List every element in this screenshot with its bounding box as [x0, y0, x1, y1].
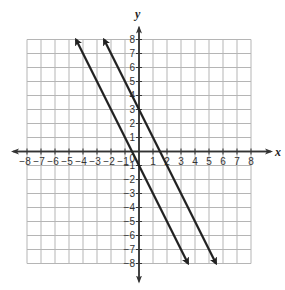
y-tick-label: 3 — [129, 104, 135, 115]
x-tick-label: 3 — [178, 156, 184, 167]
x-tick-label: −8 — [19, 156, 31, 167]
x-tick-label: −4 — [75, 156, 87, 167]
y-tick-label: −7 — [124, 244, 136, 255]
x-axis-label: x — [274, 145, 281, 159]
x-tick-label: −7 — [33, 156, 45, 167]
y-tick-label: −2 — [124, 174, 136, 185]
x-tick-label: 5 — [206, 156, 212, 167]
y-axis-label: y — [133, 7, 141, 21]
y-tick-label: 6 — [129, 62, 135, 73]
x-tick-label: 6 — [220, 156, 226, 167]
y-tick-label: −6 — [124, 230, 136, 241]
x-tick-label: −3 — [89, 156, 101, 167]
y-tick-label: −3 — [124, 188, 136, 199]
x-tick-label: 4 — [192, 156, 198, 167]
x-tick-label: 1 — [150, 156, 156, 167]
y-tick-label: 1 — [129, 132, 135, 143]
y-tick-label: 7 — [129, 48, 135, 59]
y-tick-label: 8 — [129, 34, 135, 45]
coordinate-plane: xy −8−7−6−5−4−3−2−112345678−8−7−6−5−4−3−… — [0, 0, 285, 290]
y-tick-label: −4 — [124, 202, 136, 213]
x-tick-label: −5 — [61, 156, 73, 167]
x-tick-label: 8 — [248, 156, 254, 167]
x-tick-label: −6 — [47, 156, 59, 167]
axes: xy — [13, 7, 281, 282]
x-tick-label: −2 — [103, 156, 115, 167]
y-tick-label: −8 — [124, 258, 136, 269]
x-tick-label: 7 — [234, 156, 240, 167]
y-tick-label: −5 — [124, 216, 136, 227]
y-tick-label: 2 — [129, 118, 135, 129]
y-tick-label: 5 — [129, 76, 135, 87]
